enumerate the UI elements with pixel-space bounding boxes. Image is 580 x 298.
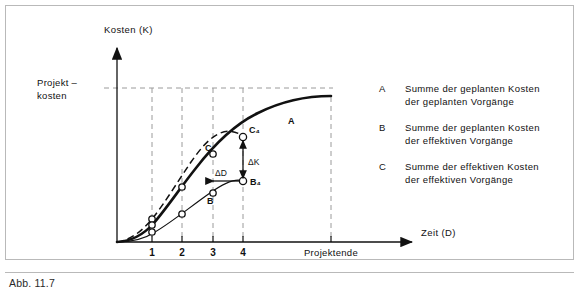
legend-text-C-line2: der effektiven Vorgänge	[405, 174, 513, 185]
marker-A-x1	[149, 222, 155, 228]
caption-divider	[5, 272, 574, 273]
legend-key-B: B	[379, 122, 386, 133]
x-axis-title: Zeit (D)	[421, 227, 456, 238]
legend-text-B-line2: der effektiven Vorgänge	[405, 135, 513, 146]
tick-label-2: 2	[179, 247, 185, 258]
chart-canvas: Kosten (K) Zeit (D) Projekt – kosten 1 2…	[0, 0, 580, 298]
marker-C-x2	[179, 184, 185, 190]
projektkosten-label-line1: Projekt –	[37, 77, 78, 88]
y-axis-title: Kosten (K)	[104, 24, 153, 35]
legend-key-C: C	[379, 161, 386, 172]
tick-label-4: 4	[240, 247, 246, 258]
legend-text-B-line1: Summe der geplanten Kosten	[405, 122, 540, 133]
tick-label-3: 3	[210, 247, 216, 258]
figure-caption: Abb. 11.7	[9, 277, 55, 289]
curve-label-A: A	[288, 116, 295, 126]
legend-text-C-line1: Summe der effektiven Kosten	[405, 161, 539, 172]
legend: A Summe der geplanten Kosten der geplant…	[379, 83, 540, 185]
curve-label-C: C	[205, 143, 212, 153]
legend-text-A-line2: der geplanten Vorgänge	[405, 96, 514, 107]
curve-label-B: B	[207, 196, 214, 206]
marker-B4	[239, 177, 246, 184]
delta-K-label: ΔK	[248, 157, 260, 167]
gridlines	[104, 88, 333, 242]
data-point-markers	[149, 133, 247, 235]
legend-key-A: A	[379, 83, 386, 94]
point-label-B4: B₄	[250, 177, 261, 187]
marker-B-x1	[149, 229, 155, 235]
projektkosten-label-line2: kosten	[37, 90, 67, 101]
marker-B-x2	[179, 211, 185, 217]
marker-C4	[239, 133, 246, 140]
tick-label-projektende: Projektende	[304, 247, 358, 258]
delta-D-label: ΔD	[215, 168, 227, 178]
point-label-C4: C₄	[249, 125, 260, 135]
tick-label-1: 1	[149, 247, 155, 258]
figure-page: Kosten (K) Zeit (D) Projekt – kosten 1 2…	[0, 0, 580, 298]
legend-text-A-line1: Summe der geplanten Kosten	[405, 83, 540, 94]
